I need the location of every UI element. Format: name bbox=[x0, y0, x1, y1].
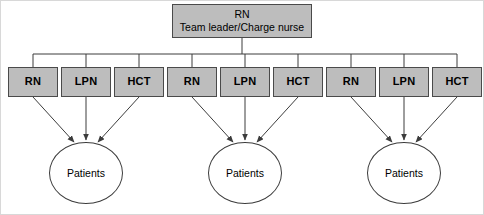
node-charge-nurse-role: RN bbox=[234, 8, 249, 21]
node-group1-rn: RN bbox=[8, 67, 58, 97]
node-label: RN bbox=[343, 75, 359, 89]
node-group2-patients: Patients bbox=[208, 142, 282, 204]
node-label: LPN bbox=[234, 75, 257, 89]
node-label: Patients bbox=[67, 167, 105, 179]
node-label: LPN bbox=[75, 75, 98, 89]
node-label: HCT bbox=[127, 75, 150, 89]
node-group3-patients: Patients bbox=[367, 142, 441, 204]
role-to-patients-arrow bbox=[192, 97, 233, 142]
node-label: HCT bbox=[445, 75, 468, 89]
role-to-patients-arrow bbox=[98, 97, 139, 142]
role-to-patients-arrow bbox=[351, 97, 392, 142]
role-to-patients-arrow bbox=[33, 97, 74, 142]
node-group1-lpn: LPN bbox=[61, 67, 111, 97]
node-label: HCT bbox=[286, 75, 309, 89]
node-group2-hct: HCT bbox=[273, 67, 323, 97]
node-group2-rn: RN bbox=[167, 67, 217, 97]
node-charge-nurse-title: Team leader/Charge nurse bbox=[180, 21, 304, 34]
node-group1-hct: HCT bbox=[114, 67, 164, 97]
node-group1-patients: Patients bbox=[49, 142, 123, 204]
role-to-patients-arrow bbox=[257, 97, 298, 142]
node-group3-lpn: LPN bbox=[379, 67, 429, 97]
node-label: Patients bbox=[385, 167, 423, 179]
node-charge-nurse: RN Team leader/Charge nurse bbox=[172, 4, 312, 38]
node-group3-hct: HCT bbox=[432, 67, 482, 97]
node-label: RN bbox=[25, 75, 41, 89]
role-to-patients-arrow bbox=[416, 97, 457, 142]
org-chart-diagram: RN Team leader/Charge nurse RN LPN HCT R… bbox=[0, 0, 484, 215]
node-label: RN bbox=[184, 75, 200, 89]
node-group3-rn: RN bbox=[326, 67, 376, 97]
node-group2-lpn: LPN bbox=[220, 67, 270, 97]
node-label: LPN bbox=[393, 75, 416, 89]
node-label: Patients bbox=[226, 167, 264, 179]
